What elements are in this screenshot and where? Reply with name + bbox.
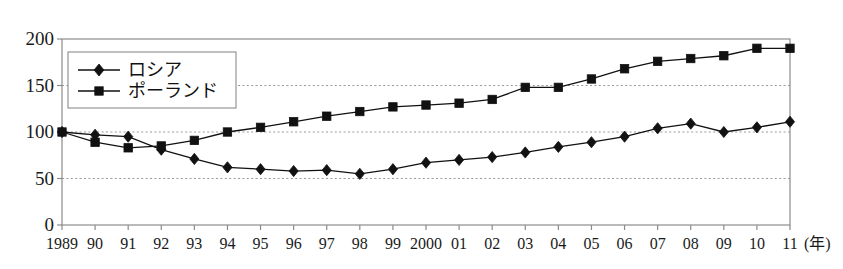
- data-point-1-90: [91, 138, 99, 146]
- data-point-1-07: [653, 57, 661, 65]
- data-point-0-97: [322, 165, 331, 176]
- y-tick-label-50: 50: [35, 169, 54, 188]
- y-tick-label-200: 200: [26, 29, 55, 48]
- data-point-0-04: [554, 141, 563, 152]
- data-point-1-94: [223, 128, 231, 136]
- data-point-1-96: [289, 118, 297, 126]
- data-point-0-08: [686, 118, 695, 129]
- data-point-1-93: [190, 136, 198, 144]
- data-point-0-11: [785, 116, 794, 127]
- x-axis-unit-label: (年): [804, 236, 831, 252]
- chart-container: 050100150200 198990919293949596979899200…: [0, 0, 843, 269]
- data-point-0-95: [256, 164, 265, 175]
- data-point-1-91: [124, 144, 132, 152]
- data-point-1-05: [587, 75, 595, 83]
- data-point-1-2000: [422, 101, 430, 109]
- data-point-0-09: [719, 126, 728, 137]
- data-point-0-05: [587, 137, 596, 148]
- data-point-1-11: [786, 44, 794, 52]
- y-tick-label-0: 0: [45, 215, 55, 234]
- data-point-1-92: [157, 142, 165, 150]
- legend-label-russia: ロシア: [128, 61, 182, 79]
- data-point-1-04: [554, 83, 562, 91]
- data-point-1-03: [521, 83, 529, 91]
- data-point-0-2000: [421, 157, 430, 168]
- legend-label-poland: ポーランド: [128, 82, 218, 100]
- data-point-0-93: [190, 153, 199, 164]
- data-point-0-06: [620, 131, 629, 142]
- data-point-0-02: [488, 152, 497, 163]
- data-point-1-97: [323, 112, 331, 120]
- data-point-1-01: [455, 99, 463, 107]
- data-point-0-98: [355, 168, 364, 179]
- data-point-1-98: [356, 107, 364, 115]
- data-point-1-08: [687, 54, 695, 62]
- data-point-1-1989: [58, 128, 66, 136]
- data-point-0-91: [124, 131, 133, 142]
- data-point-0-01: [455, 154, 464, 165]
- y-tick-label-150: 150: [26, 76, 55, 95]
- data-point-1-09: [720, 52, 728, 60]
- data-point-1-95: [256, 123, 264, 131]
- data-point-0-99: [388, 164, 397, 175]
- data-point-1-02: [488, 95, 496, 103]
- line-chart-plot: [0, 0, 843, 269]
- legend-marker-square: [95, 87, 103, 95]
- data-point-1-99: [389, 103, 397, 111]
- data-point-0-96: [289, 165, 298, 176]
- data-point-1-10: [753, 44, 761, 52]
- data-point-0-10: [752, 122, 761, 133]
- data-point-0-03: [521, 147, 530, 158]
- data-point-0-94: [223, 162, 232, 173]
- y-tick-label-100: 100: [26, 122, 55, 141]
- data-point-1-06: [620, 65, 628, 73]
